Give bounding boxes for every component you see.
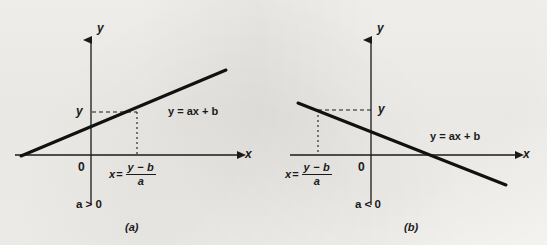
panel-b-x-expression-fraction: y − b a	[302, 162, 332, 187]
panel-a-x-expression-denominator: a	[136, 175, 146, 187]
panel-b-caption: (b)	[404, 222, 418, 233]
panel-a-y-axis-label: y	[97, 22, 104, 34]
panel-b-x-expression-denominator: a	[312, 175, 322, 187]
panel-a-x-expression-numerator: y − b	[126, 162, 156, 174]
panel-a: y x 0 y y = ax + b x = y − b a a > 0 (a)	[0, 0, 274, 245]
panel-b-x-expression: x = y − b a	[285, 162, 332, 187]
panel-a-x-expression-lhs: x	[109, 169, 115, 180]
panel-b-x-expression-numerator: y − b	[302, 162, 332, 174]
panel-b-x-expression-equals: =	[292, 169, 298, 180]
panel-b-origin-label: 0	[358, 161, 365, 173]
panel-b: y x 0 y y = ax + b x = y − b a a < 0 (b)	[273, 0, 547, 245]
panel-b-x-axis-label: x	[523, 148, 530, 160]
panel-b-y-axis-label: y	[377, 22, 384, 34]
panel-a-y-value-label: y	[76, 105, 83, 117]
panel-b-condition-label: a < 0	[355, 199, 381, 211]
panel-a-plot	[0, 0, 274, 245]
panel-a-condition-label: a > 0	[76, 199, 102, 211]
panel-b-equation-label: y = ax + b	[430, 131, 480, 142]
panel-b-x-expression-lhs: x	[285, 169, 291, 180]
figure-linear-function-graphs: y x 0 y y = ax + b x = y − b a a > 0 (a)	[0, 0, 547, 245]
panel-a-x-expression-equals: =	[116, 169, 122, 180]
panel-b-y-value-label: y	[378, 103, 385, 115]
panel-a-equation-label: y = ax + b	[168, 106, 218, 117]
panel-b-plot	[273, 0, 547, 245]
panel-a-origin-label: 0	[78, 161, 85, 173]
panel-a-x-axis-label: x	[245, 148, 252, 160]
panel-a-x-expression: x = y − b a	[109, 162, 156, 187]
panel-a-x-expression-fraction: y − b a	[126, 162, 156, 187]
panel-a-caption: (a)	[125, 222, 138, 233]
